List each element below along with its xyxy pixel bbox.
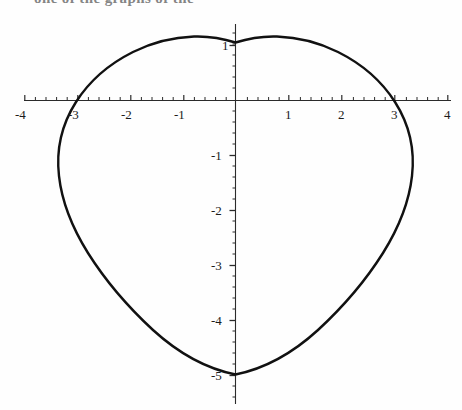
xtick-label-1: 1: [285, 108, 292, 121]
ytick-label-minus2: -2: [211, 204, 221, 217]
ytick-label-minus1: -1: [211, 149, 221, 162]
xtick-label-minus3: -3: [68, 108, 78, 121]
xtick-label-minus1: -1: [174, 108, 184, 121]
y-axis-major-ticks: [230, 46, 236, 376]
xtick-label-2: 2: [338, 108, 345, 121]
xtick-label-3: 3: [391, 108, 398, 121]
cardioid-plot: [0, 0, 462, 410]
ytick-label-minus3: -3: [211, 259, 221, 272]
xtick-label-minus4: -4: [15, 108, 25, 121]
ytick-label-minus4: -4: [211, 314, 221, 327]
ytick-label-1: 1: [222, 39, 229, 52]
xtick-label-minus2: -2: [121, 108, 131, 121]
ytick-label-minus5: -5: [211, 369, 221, 382]
xtick-label-4: 4: [444, 108, 451, 121]
figure-canvas: one of the graphs of the: [0, 0, 462, 410]
